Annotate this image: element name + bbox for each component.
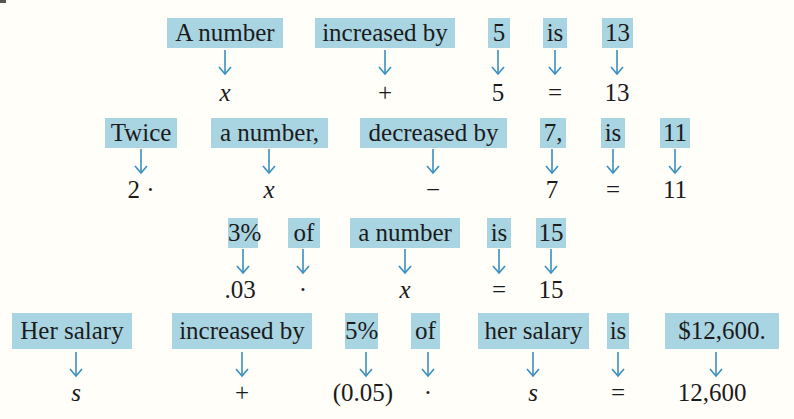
phrase-decreased-by: decreased by xyxy=(360,118,507,148)
phrase-a-number: A number xyxy=(167,18,283,48)
phrase-a-number: a number xyxy=(350,218,460,248)
phrase-her-salary-2: her salary xyxy=(478,313,589,349)
phrase-5-percent: 5% xyxy=(345,313,378,349)
formula-term: 5 xyxy=(492,78,505,108)
phrase-is: is xyxy=(487,218,511,248)
down-arrow-icon xyxy=(236,249,250,275)
formula-term: 15 xyxy=(539,275,564,305)
formula-term: s xyxy=(528,378,538,408)
formula-term: x xyxy=(219,78,230,108)
phrase-12600: $12,600. xyxy=(665,313,779,349)
formula-term: x xyxy=(399,275,410,305)
down-arrow-icon xyxy=(421,352,435,378)
formula-term: 12,600 xyxy=(678,378,747,408)
down-arrow-icon xyxy=(426,149,440,175)
down-arrow-icon xyxy=(69,352,83,378)
formula-operator: + xyxy=(235,378,249,408)
formula-term: 2 · xyxy=(127,175,154,205)
formula-operator: = xyxy=(611,378,625,408)
down-arrow-icon xyxy=(492,249,506,275)
formula-term: 13 xyxy=(605,78,630,108)
phrase-of: of xyxy=(288,218,320,248)
phrase-her-salary: Her salary xyxy=(12,313,132,349)
down-arrow-icon xyxy=(235,352,249,378)
phrase-twice: Twice xyxy=(105,118,177,148)
formula-term: x xyxy=(263,175,274,205)
phrase-7: 7, xyxy=(540,118,566,148)
formula-term: s xyxy=(71,378,81,408)
down-arrow-icon xyxy=(262,149,276,175)
formula-operator: · xyxy=(424,378,432,408)
phrase-13: 13 xyxy=(602,18,633,48)
phrase-a-number: a number, xyxy=(211,118,328,148)
down-arrow-icon xyxy=(668,149,682,175)
phrase-increased-by: increased by xyxy=(172,313,312,349)
down-arrow-icon xyxy=(378,50,392,76)
down-arrow-icon xyxy=(544,249,558,275)
down-arrow-icon xyxy=(548,50,562,76)
formula-term: (0.05) xyxy=(333,378,393,408)
page-corner-mark xyxy=(0,0,6,3)
phrase-3-percent: 3% xyxy=(228,218,258,248)
phrase-5: 5 xyxy=(488,18,510,48)
formula-operator: = xyxy=(492,275,506,305)
phrase-15: 15 xyxy=(536,218,566,248)
formula-term: .03 xyxy=(224,275,255,305)
phrase-is: is xyxy=(543,18,567,48)
formula-term: 7 xyxy=(546,175,559,205)
down-arrow-icon xyxy=(398,249,412,275)
down-arrow-icon xyxy=(606,149,620,175)
down-arrow-icon xyxy=(218,50,232,76)
down-arrow-icon xyxy=(610,50,624,76)
phrase-of: of xyxy=(411,313,440,349)
phrase-is: is xyxy=(601,118,625,148)
formula-operator: = xyxy=(548,78,562,108)
down-arrow-icon xyxy=(526,352,540,378)
down-arrow-icon xyxy=(491,50,505,76)
formula-operator: · xyxy=(299,275,307,305)
down-arrow-icon xyxy=(545,149,559,175)
formula-operator: + xyxy=(378,78,392,108)
down-arrow-icon xyxy=(134,149,148,175)
phrase-increased-by: increased by xyxy=(315,18,455,48)
down-arrow-icon xyxy=(611,352,625,378)
down-arrow-icon xyxy=(296,249,310,275)
down-arrow-icon xyxy=(709,352,723,378)
formula-operator: − xyxy=(426,175,440,205)
formula-operator: = xyxy=(606,175,620,205)
down-arrow-icon xyxy=(359,352,373,378)
phrase-11: 11 xyxy=(660,118,690,148)
formula-term: 11 xyxy=(663,175,687,205)
phrase-is: is xyxy=(607,313,629,349)
